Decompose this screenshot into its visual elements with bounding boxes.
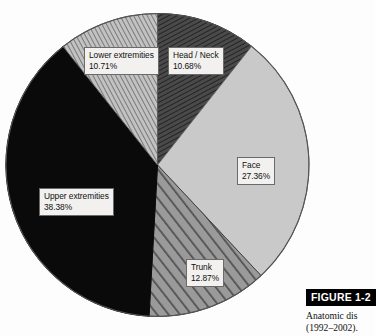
slice-label-value: 27.36%	[242, 171, 270, 182]
slice-label-name: Head / Neck	[173, 50, 219, 61]
slice-label-name: Upper extremities	[44, 191, 109, 202]
slice-label-name: Trunk	[191, 262, 219, 273]
figure-caption-line-2: (1992–2002).	[306, 322, 380, 334]
slice-label-trunk: Trunk 12.87%	[186, 259, 224, 287]
slice-label-value: 12.87%	[191, 273, 219, 284]
slice-label-value: 10.71%	[89, 61, 154, 72]
slice-label-value: 10.68%	[173, 61, 219, 72]
slice-label-lower-extremities: Lower extremities 10.71%	[84, 47, 159, 75]
slice-label-head-neck: Head / Neck 10.68%	[168, 47, 224, 75]
figure-caption-line-1: Anatomic dis	[306, 310, 380, 322]
figure-caption-block: FIGURE 1-2 Anatomic dis (1992–2002).	[306, 287, 380, 335]
figure-caption-text: Anatomic dis (1992–2002).	[306, 310, 380, 335]
figure-number-label: FIGURE 1-2	[306, 289, 376, 306]
slice-label-name: Lower extremities	[89, 50, 154, 61]
slice-label-face: Face 27.36%	[237, 157, 275, 185]
slice-label-name: Face	[242, 160, 270, 171]
slice-label-upper-extremities: Upper extremities 38.38%	[39, 188, 114, 216]
slice-label-value: 38.38%	[44, 202, 109, 213]
